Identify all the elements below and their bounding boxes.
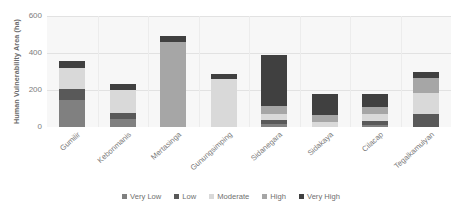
y-tick-label: 600	[12, 12, 42, 20]
bar-segment[interactable]	[261, 55, 287, 106]
bar-segment[interactable]	[59, 100, 85, 127]
legend-swatch-icon	[262, 194, 267, 199]
y-tick-label: 400	[12, 49, 42, 57]
bar-segment[interactable]	[413, 114, 439, 127]
bar-segment[interactable]	[160, 42, 186, 127]
bar-segment[interactable]	[59, 68, 85, 90]
y-axis-title: Human Vulnerability Area (ha)	[12, 4, 21, 124]
bar-segment[interactable]	[312, 122, 338, 127]
x-tick-label: Sidakaya	[287, 130, 335, 174]
bar-segment[interactable]	[110, 90, 136, 113]
bar-segment[interactable]	[59, 61, 85, 68]
legend-item[interactable]: High	[262, 193, 286, 201]
x-tick-label: Kebonmanis	[85, 130, 133, 174]
bar-segment[interactable]	[312, 115, 338, 122]
legend-label: Moderate	[217, 193, 249, 201]
bar-segment[interactable]	[312, 94, 338, 115]
legend-swatch-icon	[209, 194, 214, 199]
x-tick-label: Gunungsimping	[186, 130, 234, 174]
bar-segment[interactable]	[413, 93, 439, 114]
bar-segment[interactable]	[362, 114, 388, 121]
bar-group[interactable]	[413, 72, 439, 127]
legend-label: Low	[182, 193, 196, 201]
bar-segment[interactable]	[110, 119, 136, 127]
legend-swatch-icon	[299, 194, 304, 199]
bar-segment[interactable]	[362, 125, 388, 127]
y-tick-label: 0	[12, 123, 42, 131]
x-tick-label: Tegalkamulyan	[388, 130, 436, 174]
legend-label: High	[270, 193, 286, 201]
x-tick-label: Cilacap	[338, 130, 386, 174]
bar-group[interactable]	[160, 36, 186, 127]
legend-item[interactable]: Very High	[299, 193, 340, 201]
legend-item[interactable]: Low	[174, 193, 196, 201]
bar-group[interactable]	[110, 84, 136, 127]
bars-layer	[47, 16, 451, 127]
bar-segment[interactable]	[261, 106, 287, 115]
bar-segment[interactable]	[261, 124, 287, 127]
x-tick-label: Gumilir	[35, 130, 83, 174]
bar-segment[interactable]	[362, 94, 388, 107]
bar-group[interactable]	[312, 94, 338, 127]
bar-group[interactable]	[211, 74, 237, 127]
legend-item[interactable]: Very Low	[122, 193, 161, 201]
chart-legend: Very LowLowModerateHighVery High	[0, 193, 462, 201]
legend-swatch-icon	[174, 194, 179, 199]
legend-item[interactable]: Moderate	[209, 193, 249, 201]
bar-segment[interactable]	[362, 107, 388, 114]
bar-group[interactable]	[261, 55, 287, 127]
legend-label: Very High	[307, 193, 340, 201]
bar-segment[interactable]	[211, 79, 237, 127]
bar-group[interactable]	[362, 94, 388, 127]
x-tick-label: Sidanegara	[237, 130, 285, 174]
x-tick-label: Mertasinga	[136, 130, 184, 174]
bar-group[interactable]	[59, 61, 85, 127]
legend-label: Very Low	[130, 193, 161, 201]
legend-swatch-icon	[122, 194, 127, 199]
y-tick-label: 200	[12, 86, 42, 94]
chart-container: Human Vulnerability Area (ha) 0200400600…	[0, 0, 462, 215]
bar-segment[interactable]	[413, 78, 439, 93]
bar-segment[interactable]	[59, 89, 85, 99]
